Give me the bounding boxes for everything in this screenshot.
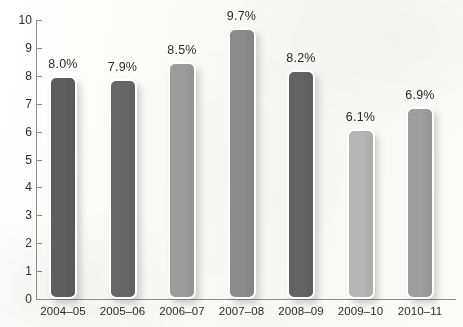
y-tick-mark xyxy=(36,243,42,244)
y-tick-label: 8 xyxy=(25,69,32,83)
bar-value-label: 7.9% xyxy=(108,60,137,74)
y-tick-mark xyxy=(36,160,42,161)
bar: 8.5% xyxy=(168,62,196,299)
y-tick-label: 10 xyxy=(18,13,32,27)
y-tick-label: 7 xyxy=(25,97,32,111)
y-tick-mark xyxy=(36,299,42,300)
x-category-label: 2006–07 xyxy=(152,305,212,317)
x-category-label: 2009–10 xyxy=(331,305,391,317)
y-tick-label: 0 xyxy=(25,292,32,306)
y-tick-mark xyxy=(36,20,42,21)
y-tick-mark xyxy=(36,48,42,49)
bar: 6.1% xyxy=(347,129,375,299)
x-category-label: 2007–08 xyxy=(212,305,272,317)
y-tick-mark xyxy=(36,132,42,133)
bar-rect xyxy=(49,76,77,299)
bar-rect xyxy=(347,129,375,299)
y-tick-mark xyxy=(36,215,42,216)
y-tick-label: 4 xyxy=(25,180,32,194)
y-tick-label: 9 xyxy=(25,41,32,55)
bar: 6.9% xyxy=(406,107,434,300)
bar-rect xyxy=(406,107,434,300)
y-tick-mark xyxy=(36,271,42,272)
x-category-label: 2005–06 xyxy=(93,305,153,317)
x-category-label: 2010–11 xyxy=(390,305,450,317)
bar-value-label: 8.2% xyxy=(286,51,315,65)
x-category-label: 2004–05 xyxy=(33,305,93,317)
bar-rect xyxy=(287,70,315,299)
y-tick-mark xyxy=(36,76,42,77)
bar: 9.7% xyxy=(228,28,256,299)
y-tick-label: 3 xyxy=(25,208,32,222)
y-tick-mark xyxy=(36,104,42,105)
bar-rect xyxy=(228,28,256,299)
y-tick-label: 6 xyxy=(25,125,32,139)
y-tick-mark xyxy=(36,187,42,188)
bar-value-label: 8.0% xyxy=(48,57,77,71)
x-category-label: 2008–09 xyxy=(271,305,331,317)
y-tick-label: 5 xyxy=(25,153,32,167)
bar-value-label: 9.7% xyxy=(227,9,256,23)
bar-value-label: 6.1% xyxy=(346,110,375,124)
y-tick-label: 2 xyxy=(25,236,32,250)
y-tick-label: 1 xyxy=(25,264,32,278)
bar: 8.2% xyxy=(287,70,315,299)
bar: 7.9% xyxy=(109,79,137,299)
bar-chart: 012345678910 8.0%7.9%8.5%9.7%8.2%6.1%6.9… xyxy=(0,0,463,327)
bar-rect xyxy=(109,79,137,299)
bar-value-label: 6.9% xyxy=(405,88,434,102)
bar: 8.0% xyxy=(49,76,77,299)
bar-value-label: 8.5% xyxy=(167,43,196,57)
bar-rect xyxy=(168,62,196,299)
